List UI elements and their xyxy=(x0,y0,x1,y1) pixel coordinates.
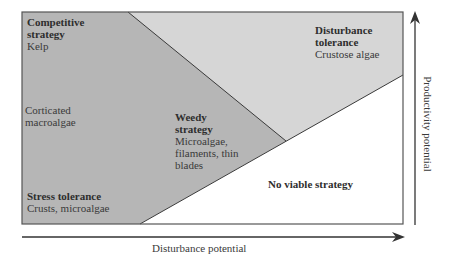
y-axis-label: Productivity potential xyxy=(422,54,434,194)
label-no-viable-strategy: No viable strategy xyxy=(268,178,353,190)
corticated-line-1: Corticated xyxy=(25,104,76,116)
stress-examples: Crusts, microalgae xyxy=(27,202,109,214)
disturbance-examples: Crustose algae xyxy=(315,48,379,60)
competitive-heading-2: strategy xyxy=(27,28,84,40)
stress-heading: Stress tolerance xyxy=(27,190,109,202)
disturbance-heading-1: Disturbance xyxy=(315,24,379,36)
competitive-heading-1: Competitive xyxy=(27,16,84,28)
label-stress-tolerance: Stress tolerance Crusts, microalgae xyxy=(27,190,109,214)
no-viable-heading: No viable strategy xyxy=(268,178,353,190)
weedy-heading-2: strategy xyxy=(175,123,239,135)
label-corticated-macroalgae: Corticated macroalgae xyxy=(25,104,76,128)
weedy-line-3: blades xyxy=(175,159,239,171)
disturbance-heading-2: tolerance xyxy=(315,36,379,48)
x-axis-label: Disturbance potential xyxy=(152,242,246,254)
weedy-line-2: filaments, thin xyxy=(175,147,239,159)
weedy-line-1: Microalgae, xyxy=(175,135,239,147)
label-weedy-strategy: Weedy strategy Microalgae, filaments, th… xyxy=(175,111,239,171)
weedy-heading-1: Weedy xyxy=(175,111,239,123)
label-competitive-strategy: Competitive strategy Kelp xyxy=(27,16,84,52)
label-disturbance-tolerance: Disturbance tolerance Crustose algae xyxy=(315,24,379,60)
competitive-examples: Kelp xyxy=(27,40,84,52)
corticated-line-2: macroalgae xyxy=(25,116,76,128)
